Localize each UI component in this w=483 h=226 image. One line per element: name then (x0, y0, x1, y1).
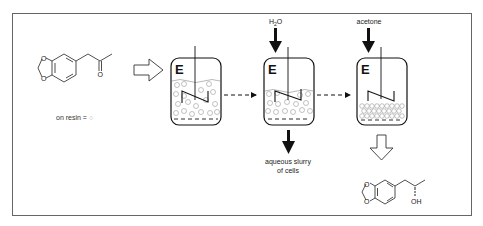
substrate-ketone-o: O (98, 71, 104, 78)
hollow-arrow-right (134, 59, 163, 81)
water-input-arrow (269, 28, 282, 53)
vessel-3-enzyme-label: E (361, 62, 370, 77)
substrate-o-bottom: O (41, 75, 47, 82)
vessel-2-enzyme-label: E (268, 62, 277, 77)
hollow-arrow-down (370, 135, 393, 160)
resin-legend: on resin = ○ (56, 114, 93, 121)
vessel-2 (264, 47, 314, 125)
slurry-label-line1: aqueous slurry (265, 158, 311, 166)
product-oh-label: OH (411, 198, 422, 205)
water-label: H2O (269, 18, 283, 27)
process-diagram: O O O E E H2O (0, 0, 483, 226)
resin-bead-icon: ○ (89, 114, 93, 121)
substrate-o-top: O (41, 55, 47, 62)
product-o-top: O (364, 181, 370, 188)
vessel-3 (357, 47, 407, 125)
acetone-label: acetone (357, 18, 382, 25)
vessel-1 (171, 46, 221, 125)
slurry-output-arrow (282, 130, 295, 154)
vessel-1-enzyme-label: E (175, 62, 184, 77)
product-o-bottom: O (364, 198, 370, 205)
resin-legend-label: on resin = (56, 114, 89, 121)
acetone-input-arrow (362, 28, 375, 53)
slurry-label-line2: of cells (277, 167, 299, 174)
